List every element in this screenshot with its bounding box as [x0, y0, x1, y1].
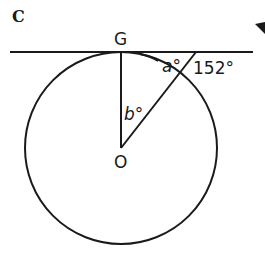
angle-label-a: a° [162, 56, 181, 76]
angle-label-152: 152° [193, 58, 234, 78]
angle-label-b: b° [124, 104, 143, 124]
point-label-g: G [114, 29, 127, 49]
point-label-o: O [114, 152, 127, 172]
circle-tangent-diagram: C G O a° 152° b° [0, 0, 265, 257]
corner-arrow-mark [255, 22, 265, 34]
secant-line [121, 52, 196, 148]
panel-label: C [12, 7, 25, 26]
